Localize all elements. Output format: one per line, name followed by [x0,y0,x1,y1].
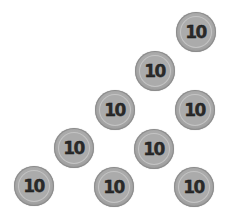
coin-5: 10 [54,128,94,168]
coin-value: 10 [23,178,44,195]
coin-value: 10 [185,24,206,41]
coin-value: 10 [104,102,125,119]
coin-7: 10 [14,166,54,206]
coin-9: 10 [174,167,214,207]
coin-value: 10 [183,179,204,196]
coin-4: 10 [175,90,215,130]
coin-value: 10 [144,63,165,80]
coin-8: 10 [94,167,134,207]
coin-3: 10 [95,90,135,130]
coin-value: 10 [63,140,84,157]
coin-1: 10 [176,12,216,52]
coin-value: 10 [143,141,164,158]
coin-value: 10 [184,102,205,119]
coin-6: 10 [134,129,174,169]
coin-value: 10 [103,179,124,196]
coin-2: 10 [135,51,175,91]
